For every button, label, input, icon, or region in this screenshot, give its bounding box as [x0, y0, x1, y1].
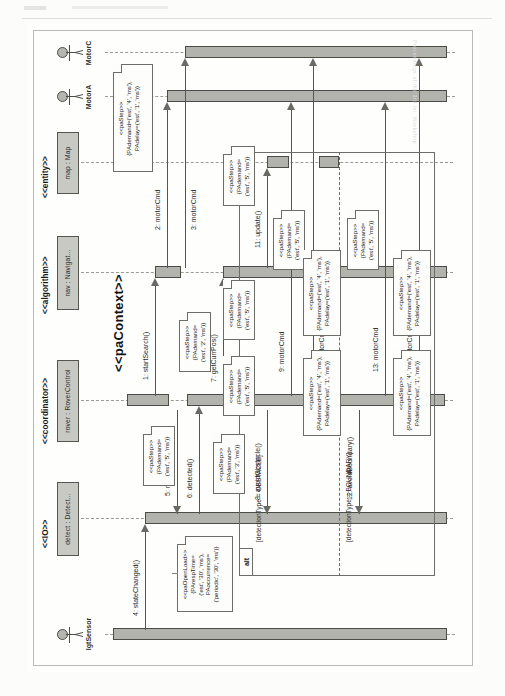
lifeline-stereotype-io: <<IO>>: [41, 520, 50, 548]
diagram-stage-wrapper: lgtSensor detect : Detect... <<IO>> rove…: [0, 0, 505, 696]
note-pastep-5ms-e: <<paStep>> {PAdemand= ('est', '5', 'ms')…: [223, 146, 255, 206]
note-pastep-5ms-d: <<paStep>> {PAdemand= ('est', '5', 'ms')…: [273, 210, 305, 270]
message-arrow-10: [309, 58, 317, 66]
message-arrow-3: [181, 58, 189, 66]
message-line-6: [199, 410, 200, 514]
note-paopenload: <<paOpenLoad>> {PArespTime= ('est', '30'…: [177, 536, 233, 612]
note-pastep-5ms-f: <<paStep>> {PAdemand= ('est', '5', 'ms')…: [347, 210, 379, 270]
actor-lgtsensor-label: lgtSensor: [85, 612, 92, 656]
message-arrow-1: [151, 278, 159, 286]
note-pastep-4ms-a: <<paStep>> {PAdemand=('est', '4', 'ms'),…: [303, 350, 341, 436]
note-pastep-5ms-a: <<paStep>> {PAdemand= ('est', '5', 'ms')…: [143, 426, 175, 486]
lifeline-head-coordinator[interactable]: rover : RoverControl: [57, 360, 79, 442]
message-label-4: 4: stateChanged(): [132, 560, 139, 616]
context-stereotype-label: <<paContext>>: [111, 274, 126, 372]
lifeline-stereotype-entity: <<entity>>: [41, 156, 50, 198]
message-label-1: 1: startSearch(): [142, 332, 149, 380]
exec-bar-lgtsensor: [113, 628, 447, 640]
alt-guard-obstacle: [detectionType = OBSTACLE]: [255, 455, 262, 542]
exec-bar-motorc-1: [185, 46, 447, 58]
lifeline-head-entity[interactable]: map : Map: [57, 132, 79, 194]
lifeline-head-algorithm[interactable]: nav : Navigat...: [57, 236, 79, 310]
message-line-4: [145, 526, 146, 630]
note-pastep-5ms-b: <<paStep>> {PAdemand= ('est', '5', 'ms')…: [223, 356, 255, 416]
message-arrow-13: [381, 102, 389, 110]
actor-motora-figure: [57, 82, 83, 112]
note-pastep-5ms-c: <<paStep>> {PAdemand= ('est', '5', 'ms')…: [223, 280, 255, 340]
exec-bar-algorithm-1: [155, 266, 181, 278]
message-label-2: 2: motorCmd: [154, 190, 161, 230]
note-pastep-2ms: <<paStep>> {PAdemand= ('est', '2', 'ms')…: [179, 312, 211, 372]
page-watermark: Proceedings of the 3rd Int. Workshop: [412, 40, 418, 144]
actor-motorc-figure: [57, 38, 83, 68]
exec-bar-coordinator-1: [127, 394, 169, 406]
message-arrow-2: [163, 102, 171, 110]
message-label-7: 7: getCurrPos(): [210, 334, 217, 382]
scanned-page: lgtSensor detect : Detect... <<IO>> rove…: [0, 0, 505, 696]
message-line-3: [185, 60, 186, 268]
note-pastep-4ms-c: <<paStep>> {PAdemand=('est', '4', 'ms'),…: [393, 350, 431, 436]
message-arrow-5: [173, 506, 181, 514]
lifeline-head-io[interactable]: detect : Detect...: [57, 482, 79, 556]
exec-bar-motora-1: [167, 90, 447, 102]
message-line-2: [167, 104, 168, 268]
lifeline-stereotype-coordinator: <<coordinator>>: [41, 378, 50, 444]
message-label-3: 3: motorCmd: [190, 190, 197, 230]
actor-motorc-label: MotorC: [85, 31, 92, 75]
message-arrow-6: [195, 406, 203, 414]
message-label-6: 6: detected(): [186, 459, 193, 498]
actor-motora-label: MotorA: [85, 75, 92, 119]
alt-fragment-operator: alt: [239, 548, 253, 576]
message-arrow-9: [287, 102, 295, 110]
note-pastep-3ms: <<paStep>> {PAdemand= ('est', '3', 'ms')…: [213, 434, 245, 494]
message-line-5: [177, 410, 178, 514]
lifeline-stereotype-algorithm: <<algorithm>>: [41, 256, 50, 314]
note-pastep-4ms-b: <<paStep>> {PAdemand=('est', '4', 'ms'),…: [303, 250, 341, 336]
actor-lgtsensor-figure: [57, 620, 83, 650]
note-pastep-4ms-e: <<paStep>> {PAdemand=('est', '4', 'ms'),…: [113, 64, 153, 172]
note-anchor-paopenload: [172, 573, 178, 574]
message-arrow-4: [141, 524, 149, 532]
message-line-1: [155, 282, 156, 396]
note-pastep-4ms-d: <<paStep>> {PAdemand=('est', '4', 'ms'),…: [393, 250, 431, 336]
alt-guard-boundary: [detectionType = BOUNDARY]: [345, 453, 352, 543]
